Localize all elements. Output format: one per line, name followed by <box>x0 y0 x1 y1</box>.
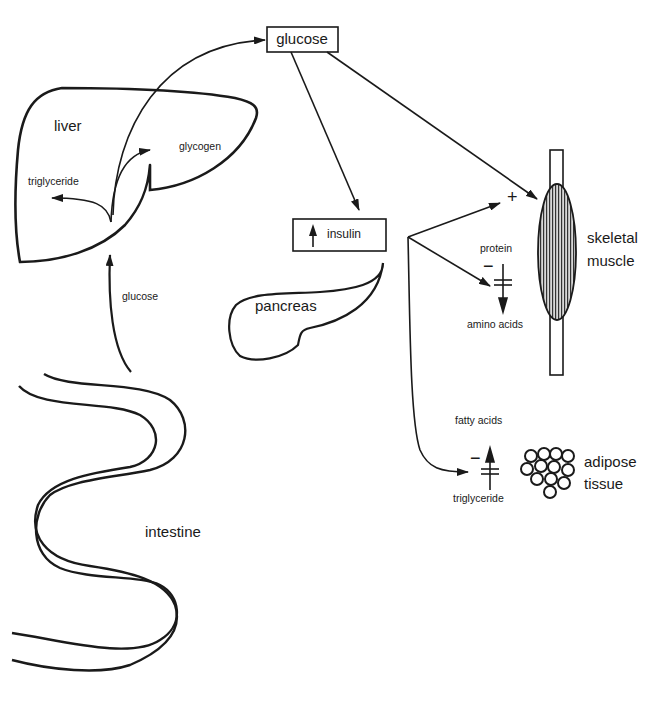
liver-label: liver <box>54 117 82 134</box>
adipose-label: adipose <box>584 453 637 470</box>
adipose-cells <box>521 448 574 498</box>
liver-triglyceride-label: triglyceride <box>28 175 79 187</box>
tissue-label: tissue <box>584 475 623 492</box>
insulin-label: insulin <box>327 227 361 241</box>
protein-label: protein <box>480 242 512 254</box>
intestinal-glucose-label: glucose <box>122 290 158 302</box>
protein-breakdown-arrow <box>494 264 512 312</box>
intestine-label: intestine <box>145 523 201 540</box>
glucose-to-insulin-arrow <box>291 52 359 210</box>
intestine-to-liver-arrow <box>110 255 131 372</box>
fatty-acids-label: fatty acids <box>455 414 502 426</box>
skeletal-label: skeletal <box>587 229 638 246</box>
adipose-triglyceride-label: triglyceride <box>453 492 504 504</box>
proteolysis-minus-sign: − <box>483 257 494 275</box>
diagram-canvas <box>0 0 661 705</box>
glucose-box-label: glucose <box>266 30 338 47</box>
skeletal-muscle-shape <box>538 150 576 375</box>
glucose-to-muscle-arrow <box>327 52 537 199</box>
pancreas-label: pancreas <box>255 297 317 314</box>
amino-acids-label: amino acids <box>467 318 523 330</box>
liver-to-glucose-arrow <box>113 40 265 215</box>
lipolysis-arrow <box>481 448 499 490</box>
muscle-label: muscle <box>587 252 635 269</box>
lipolysis-minus-sign: − <box>470 449 481 467</box>
uptake-plus-sign: + <box>507 188 518 206</box>
glycogen-label: glycogen <box>179 140 221 152</box>
